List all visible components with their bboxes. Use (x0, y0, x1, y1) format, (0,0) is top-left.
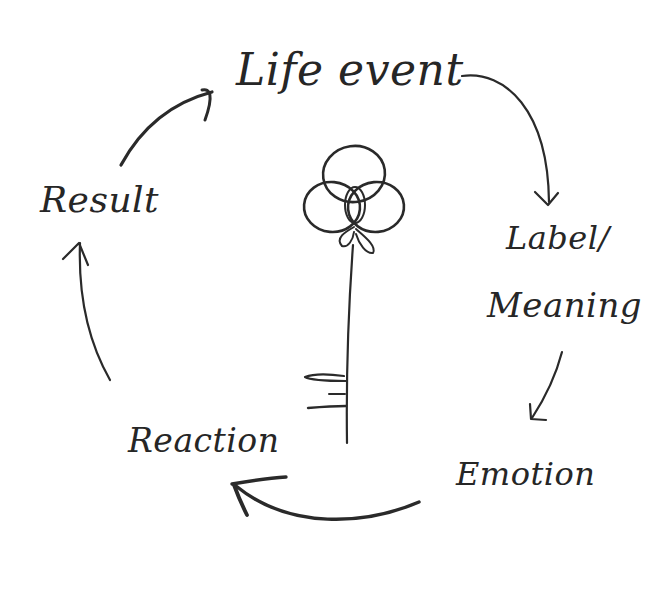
node-label-line1: Label/ (506, 222, 610, 254)
node-life-event: Life event (236, 48, 464, 92)
arrow-result-to-life-event (121, 90, 212, 165)
node-result: Result (40, 182, 159, 218)
key-icon (302, 142, 406, 443)
node-reaction: Reaction (128, 424, 279, 457)
arrow-label-to-emotion (530, 352, 562, 420)
node-meaning-line2: Meaning (487, 288, 642, 322)
arrow-life-event-to-label (462, 75, 558, 205)
node-emotion: Emotion (456, 458, 595, 490)
arrow-reaction-to-result (63, 243, 110, 380)
cycle-diagram: Life event Label/ Meaning Emotion Reacti… (0, 0, 648, 595)
arrow-emotion-to-reaction (232, 477, 419, 519)
